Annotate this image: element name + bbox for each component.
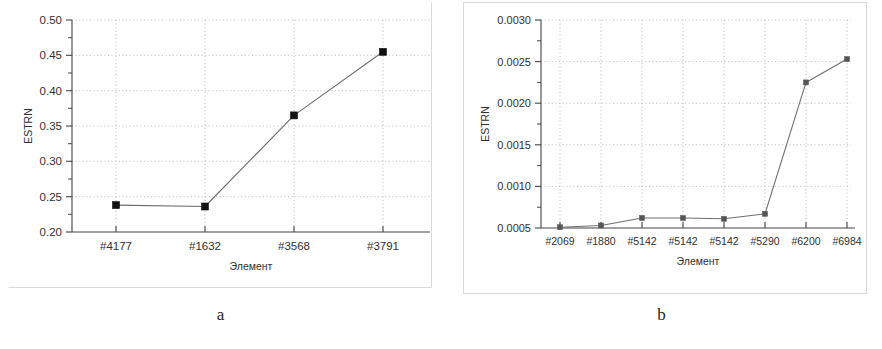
line-chart-b: 0.0030 0.0025 0.0020 0.0015 0.0010 0.000… <box>441 0 882 300</box>
x-axis-a <box>72 226 430 232</box>
x-tick-labels-b: #2069 #1880 #5142 #5142 #5142 #5290 #620… <box>545 235 861 247</box>
figure-container: 0.50 0.45 0.40 0.35 0.30 0.25 0.20 ESTRN <box>0 0 882 349</box>
data-point <box>558 225 563 230</box>
x-axis-title: Элемент <box>230 260 273 272</box>
y-tick-label: 0.40 <box>40 85 62 97</box>
x-axis-b <box>541 222 855 228</box>
x-tick-label: #2069 <box>545 235 574 247</box>
y-tick-labels-a: 0.50 0.45 0.40 0.35 0.30 0.25 0.20 <box>40 14 62 238</box>
chart-panel-a: 0.50 0.45 0.40 0.35 0.30 0.25 0.20 ESTRN <box>0 0 441 300</box>
gridlines-vertical-b <box>560 20 847 228</box>
y-tick-label: 0.0010 <box>497 180 531 192</box>
subcaption-a: a <box>0 305 441 325</box>
y-tick-label: 0.25 <box>40 191 62 203</box>
y-axis-title: ESTRN <box>22 108 34 144</box>
y-tick-label: 0.0015 <box>497 139 531 151</box>
x-tick-label: #5290 <box>750 235 779 247</box>
x-axis-title: Элемент <box>677 255 720 267</box>
data-point <box>845 57 850 62</box>
y-axis-title: ESTRN <box>479 106 491 142</box>
y-tick-label: 0.30 <box>40 155 62 167</box>
data-point <box>380 48 387 55</box>
y-tick-label: 0.20 <box>40 226 62 238</box>
x-tick-label: #3568 <box>278 240 310 252</box>
series-markers-a <box>113 48 387 210</box>
y-tick-label: 0.35 <box>40 120 62 132</box>
chart-plot-b: 0.0030 0.0025 0.0020 0.0015 0.0010 0.000… <box>441 0 882 300</box>
chart-panel-b: 0.0030 0.0025 0.0020 0.0015 0.0010 0.000… <box>441 0 882 300</box>
x-tick-label: #6984 <box>832 235 861 247</box>
y-axis-b <box>535 20 541 228</box>
data-point <box>113 202 120 209</box>
chart-plot-a: 0.50 0.45 0.40 0.35 0.30 0.25 0.20 ESTRN <box>0 0 441 300</box>
data-point <box>722 216 727 221</box>
y-tick-label: 0.0005 <box>497 222 531 234</box>
data-point <box>804 80 809 85</box>
gridlines-horizontal-a <box>72 20 430 197</box>
x-tick-label: #4177 <box>100 240 132 252</box>
y-tick-label: 0.0020 <box>497 97 531 109</box>
data-point <box>763 211 768 216</box>
line-chart-a: 0.50 0.45 0.40 0.35 0.30 0.25 0.20 ESTRN <box>0 0 441 300</box>
y-tick-label: 0.0025 <box>497 56 531 68</box>
gridlines-horizontal-b <box>541 20 851 186</box>
y-tick-label: 0.45 <box>40 49 62 61</box>
x-tick-label: #3791 <box>367 240 399 252</box>
data-point <box>599 223 604 228</box>
data-point <box>202 203 209 210</box>
x-tick-label: #5142 <box>668 235 697 247</box>
x-tick-labels-a: #4177 #1632 #3568 #3791 <box>100 240 399 252</box>
data-point <box>681 216 686 221</box>
x-tick-label: #5142 <box>709 235 738 247</box>
series-line-a <box>116 52 383 207</box>
data-point <box>291 112 298 119</box>
x-tick-label: #5142 <box>627 235 656 247</box>
y-tick-label: 0.0030 <box>497 14 531 26</box>
y-axis-a <box>66 20 72 232</box>
subcaption-b: b <box>441 305 882 325</box>
x-tick-label: #1632 <box>189 240 221 252</box>
data-point <box>640 216 645 221</box>
x-tick-label: #1880 <box>586 235 615 247</box>
x-tick-label: #6200 <box>791 235 820 247</box>
y-tick-labels-b: 0.0030 0.0025 0.0020 0.0015 0.0010 0.000… <box>497 14 531 234</box>
y-tick-label: 0.50 <box>40 14 62 26</box>
